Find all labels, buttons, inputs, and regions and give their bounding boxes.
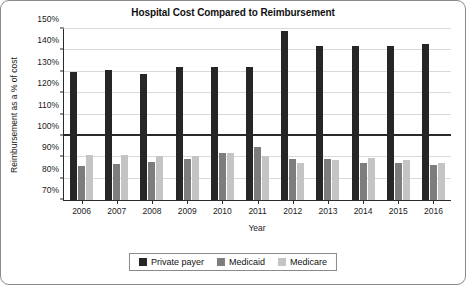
bar-medicare-2007 <box>121 155 128 200</box>
bar-medicare-2008 <box>156 156 163 200</box>
legend-label: Medicare <box>290 257 327 267</box>
x-tick-label-2016: 2016 <box>424 206 443 216</box>
chart-title: Hospital Cost Compared to Reimbursement <box>1 7 465 18</box>
x-tick-mark <box>293 200 294 204</box>
x-tick-label-2009: 2009 <box>178 206 197 216</box>
bar-medicare-2011 <box>262 156 269 200</box>
x-tick-label-2012: 2012 <box>283 206 302 216</box>
bar-medicaid-2010 <box>219 153 226 200</box>
bar-medicare-2013 <box>332 160 339 200</box>
bar-group: 2011 <box>240 29 275 200</box>
y-tick-label: 110% <box>38 100 59 110</box>
bar-group: 2007 <box>99 29 134 200</box>
bar-group: 2010 <box>205 29 240 200</box>
bar-medicare-2015 <box>403 160 410 200</box>
bar-private-payer-2016 <box>422 44 429 200</box>
bar-group: 2015 <box>381 29 416 200</box>
x-tick-label-2008: 2008 <box>143 206 162 216</box>
bar-private-payer-2015 <box>387 46 394 200</box>
y-tick-label: 70% <box>42 185 59 195</box>
bar-private-payer-2012 <box>281 31 288 200</box>
x-axis-title: Year <box>63 223 451 233</box>
y-tick-label: 100% <box>37 121 59 131</box>
bar-medicaid-2007 <box>113 164 120 200</box>
bar-private-payer-2010 <box>211 67 218 200</box>
plot-area: 70%80%90%100%110%120%130%140%150% 200620… <box>63 29 451 201</box>
bar-group: 2006 <box>64 29 99 200</box>
bar-groups: 2006200720082009201020112012201320142015… <box>64 29 451 200</box>
bar-private-payer-2009 <box>176 67 183 200</box>
x-tick-mark <box>117 200 118 204</box>
bar-medicaid-2011 <box>254 147 261 200</box>
x-tick-label-2013: 2013 <box>318 206 337 216</box>
x-tick-mark <box>433 200 434 204</box>
bar-private-payer-2013 <box>316 46 323 200</box>
bar-medicare-2012 <box>297 163 304 200</box>
y-axis-title: Reimbursement as a % of cost <box>7 29 21 201</box>
x-tick-mark <box>363 200 364 204</box>
bar-group: 2013 <box>310 29 345 200</box>
bar-medicaid-2015 <box>395 163 402 200</box>
y-axis-title-text: Reimbursement as a % of cost <box>9 57 19 173</box>
x-tick-label-2015: 2015 <box>389 206 408 216</box>
x-tick-mark <box>328 200 329 204</box>
bar-medicaid-2016 <box>430 165 437 200</box>
bar-group: 2012 <box>275 29 310 200</box>
x-tick-mark <box>152 200 153 204</box>
chart-figure: Hospital Cost Compared to Reimbursement … <box>0 0 466 285</box>
chart-legend: Private payerMedicaidMedicare <box>129 253 337 271</box>
bar-medicaid-2008 <box>148 162 155 200</box>
x-tick-label-2007: 2007 <box>107 206 126 216</box>
y-tick-label: 120% <box>37 78 59 88</box>
legend-item-medicare[interactable]: Medicare <box>278 257 327 267</box>
bar-group: 2014 <box>346 29 381 200</box>
x-tick-mark <box>398 200 399 204</box>
bar-medicaid-2006 <box>78 166 85 200</box>
legend-label: Medicaid <box>229 257 265 267</box>
bar-private-payer-2006 <box>70 72 77 200</box>
bar-private-payer-2011 <box>246 67 253 200</box>
y-tick-label: 80% <box>42 164 59 174</box>
bar-medicaid-2009 <box>184 159 191 200</box>
legend-swatch-icon <box>217 258 225 266</box>
y-tick-label: 130% <box>37 57 59 67</box>
x-tick-label-2006: 2006 <box>72 206 91 216</box>
bar-medicaid-2013 <box>324 159 331 200</box>
bar-group: 2016 <box>416 29 451 200</box>
x-tick-label-2010: 2010 <box>213 206 232 216</box>
y-tick-label: 90% <box>42 142 59 152</box>
bar-medicare-2009 <box>192 156 199 200</box>
legend-item-private-payer[interactable]: Private payer <box>139 257 204 267</box>
bar-group: 2008 <box>134 29 169 200</box>
bar-medicaid-2012 <box>289 159 296 200</box>
legend-label: Private payer <box>151 257 204 267</box>
x-tick-label-2011: 2011 <box>248 206 266 216</box>
x-tick-label-2014: 2014 <box>354 206 373 216</box>
bar-medicare-2010 <box>227 153 234 200</box>
x-tick-mark <box>82 200 83 204</box>
bar-private-payer-2007 <box>105 70 112 200</box>
y-tick-label: 140% <box>37 35 59 45</box>
legend-swatch-icon <box>139 258 147 266</box>
legend-item-medicaid[interactable]: Medicaid <box>217 257 265 267</box>
bar-private-payer-2008 <box>140 74 147 200</box>
x-tick-mark <box>187 200 188 204</box>
bar-medicaid-2014 <box>360 163 367 200</box>
bar-medicare-2006 <box>86 155 93 200</box>
bar-group: 2009 <box>170 29 205 200</box>
y-tick-label: 150% <box>37 14 59 24</box>
bar-medicare-2014 <box>368 158 375 200</box>
x-tick-mark <box>258 200 259 204</box>
bar-private-payer-2014 <box>352 46 359 200</box>
legend-swatch-icon <box>278 258 286 266</box>
bar-medicare-2016 <box>438 163 445 200</box>
x-tick-mark <box>222 200 223 204</box>
